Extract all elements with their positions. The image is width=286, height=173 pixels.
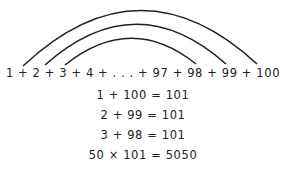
equation-total: 50 × 101 = 5050 <box>0 148 286 162</box>
number-sequence: 1 + 2 + 3 + 4 + . . . + 97 + 98 + 99 + 1… <box>0 66 286 80</box>
equation-2: 2 + 99 = 101 <box>0 108 286 122</box>
equation-3: 3 + 98 = 101 <box>0 128 286 142</box>
arc-inner <box>65 38 196 65</box>
equation-1: 1 + 100 = 101 <box>0 88 286 102</box>
